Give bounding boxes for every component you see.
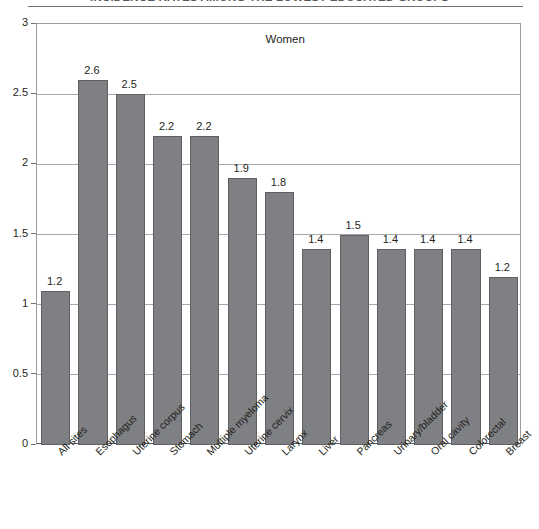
bar-value-label: 2.5	[109, 78, 150, 90]
title-divider	[28, 6, 523, 7]
y-axis-label: 2	[22, 156, 28, 168]
y-axis-tick	[31, 23, 36, 24]
bar-value-label: 1.2	[34, 275, 75, 287]
bar	[190, 136, 219, 445]
figure-title-text: INCIDENCE RATES AMONG THE LOWEST-EDUCATE…	[90, 0, 449, 3]
bar-value-label: 1.2	[482, 261, 523, 273]
bar	[340, 235, 369, 446]
y-axis-tick	[31, 303, 36, 304]
y-axis-tick	[31, 373, 36, 374]
y-axis-tick	[31, 233, 36, 234]
bar	[377, 249, 406, 445]
bar	[302, 249, 331, 445]
bar-chart: INCIDENCE RATES AMONG THE LOWEST-EDUCATE…	[0, 0, 539, 529]
y-axis-tick	[31, 444, 36, 445]
series-label: Women	[266, 33, 305, 45]
bar-value-label: 2.2	[183, 120, 224, 132]
bar-value-label: 2.2	[146, 120, 187, 132]
bar-value-label: 1.4	[295, 233, 336, 245]
bar-value-label: 1.4	[444, 233, 485, 245]
bar-value-label: 1.9	[221, 162, 262, 174]
y-axis-label: 1	[22, 297, 28, 309]
y-axis-label: 0.5	[13, 367, 28, 379]
bar-value-label: 2.6	[71, 64, 112, 76]
y-axis-label: 1.5	[13, 227, 28, 239]
bar	[78, 80, 107, 445]
y-axis-tick	[31, 93, 36, 94]
y-axis-label: 0	[22, 437, 28, 449]
gridline	[37, 164, 520, 165]
bar-value-label: 1.8	[258, 176, 299, 188]
bar	[153, 136, 182, 445]
y-axis-tick	[31, 163, 36, 164]
bar	[41, 291, 70, 445]
y-axis-label: 3	[22, 16, 28, 28]
bar-value-label: 1.4	[407, 233, 448, 245]
bar	[116, 94, 145, 445]
y-axis-label: 2.5	[13, 86, 28, 98]
bar-value-label: 1.4	[370, 233, 411, 245]
gridline	[37, 94, 520, 95]
bar-value-label: 1.5	[333, 219, 374, 231]
